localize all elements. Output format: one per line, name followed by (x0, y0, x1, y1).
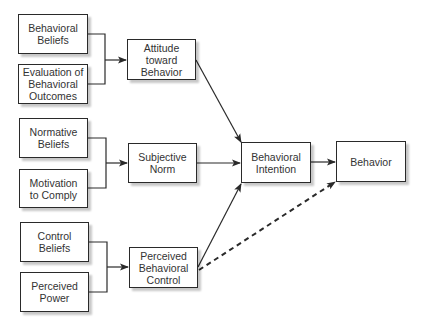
node-normative-beliefs: Normative Beliefs (19, 118, 88, 158)
node-label: Subjective Norm (138, 151, 186, 175)
node-behavioral-intention: Behavioral Intention (241, 142, 311, 183)
node-subjective-norm: Subjective Norm (128, 143, 197, 183)
node-label: Attitude toward Behavior (141, 42, 182, 78)
node-label: Behavioral Beliefs (28, 22, 78, 46)
node-label: Behavioral Intention (251, 151, 301, 175)
node-perceived-power: Perceived Power (20, 272, 89, 312)
edge-beliefs-to-attitude (88, 34, 126, 84)
edge-attitude-to-intention (196, 60, 241, 142)
edge-normative-to-subjective-norm (88, 138, 127, 188)
node-attitude: Attitude toward Behavior (127, 39, 196, 80)
node-control-beliefs: Control Beliefs (20, 222, 89, 262)
edge-pbc-to-intention (198, 184, 241, 267)
node-motivation-comply: Motivation to Comply (19, 169, 88, 208)
node-label: Control Beliefs (38, 230, 72, 254)
node-label: Behavior (350, 156, 391, 168)
node-label: Evaluation of Behavioral Outcomes (23, 66, 84, 102)
node-evaluation-outcomes: Evaluation of Behavioral Outcomes (18, 64, 88, 104)
node-behavior: Behavior (336, 141, 406, 182)
node-behavioral-beliefs: Behavioral Beliefs (18, 14, 88, 54)
node-label: Perceived Power (31, 280, 78, 304)
edge-control-to-pbc (89, 242, 128, 292)
node-label: Motivation to Comply (30, 177, 78, 201)
node-label: Normative Beliefs (30, 126, 78, 150)
node-perceived-behavioral-control: Perceived Behavioral Control (129, 247, 198, 288)
node-label: Perceived Behavioral Control (139, 250, 189, 286)
